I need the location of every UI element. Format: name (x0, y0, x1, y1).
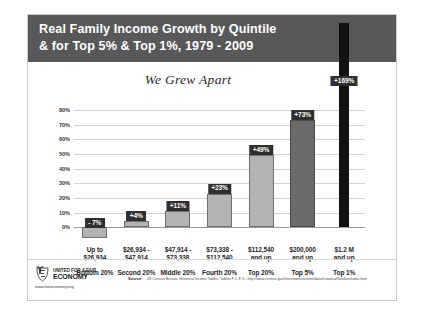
income-range-line-1: $112,540 (248, 246, 274, 254)
y-axis-tick-50: 50% (59, 151, 70, 157)
gridline-70 (74, 125, 365, 126)
y-axis-tick-0: 0% (62, 224, 70, 230)
y-axis-tick-40: 40% (59, 166, 70, 172)
data-label-fourth-20-: +23% (208, 184, 231, 194)
income-range-line-1: $200,000 (289, 246, 315, 254)
plot-region: 0%10%20%30%40%50%60%70%80%- 7%+4%+11%+23… (74, 110, 365, 242)
data-label-top-5-: +73% (291, 110, 314, 120)
y-axis-tick-70: 70% (59, 122, 70, 128)
bar-top-5- (290, 120, 315, 227)
data-label-top-20-: +49% (249, 145, 272, 155)
y-axis-tick-30: 30% (59, 180, 70, 186)
income-range-line-1: $26,934 - (117, 246, 155, 254)
gridline-0 (74, 227, 365, 228)
data-label-second-20-: +4% (126, 211, 146, 221)
data-label-top-1-percent: +169% (331, 76, 358, 86)
bar-fourth-20- (207, 194, 232, 228)
source-label: Source: (128, 276, 143, 281)
slide-footer: UNITED FOR A FAIR ECONOMY www.faireconom… (28, 259, 397, 300)
gridline-60 (74, 139, 365, 140)
gridline-50 (74, 154, 365, 155)
y-axis-tick-20: 20% (59, 195, 70, 201)
organization-logo: UNITED FOR A FAIR ECONOMY www.faireconom… (35, 266, 117, 289)
data-label-bottom-20-: - 7% (85, 218, 105, 228)
slide-canvas: Real Family Income Growth by Quintile & … (27, 14, 397, 301)
bar-bottom-20- (82, 227, 107, 237)
y-axis-tick-80: 80% (59, 107, 70, 113)
gridline-80 (74, 110, 365, 111)
income-range-line-1: Up to (76, 246, 113, 254)
income-range-line-1: $47,914 - (160, 246, 195, 254)
data-label-middle-20-: +11% (166, 201, 189, 211)
bar-middle-20- (165, 211, 190, 227)
bar-second-20- (124, 221, 149, 227)
y-axis-tick-10: 10% (59, 210, 70, 216)
income-range-line-1: $1.2 M (333, 246, 355, 254)
y-axis-tick-60: 60% (59, 136, 70, 142)
chart-subtitle: We Grew Apart (28, 72, 348, 88)
bar-top-20- (249, 155, 274, 227)
bar-top-1-percent-overshoot (339, 23, 349, 227)
fair-economy-logo-icon (35, 266, 50, 282)
gridline-40 (74, 169, 365, 170)
income-range-line-1: $73,338 - (202, 246, 237, 254)
source-attribution: Source: US Census Bureau, Historical Inc… (128, 276, 392, 281)
logo-website-url[interactable]: www.faireconomy.org (35, 284, 117, 289)
source-citation-text: US Census Bureau, Historical Income Tabl… (147, 277, 368, 281)
logo-text-line-2: ECONOMY (53, 274, 96, 280)
